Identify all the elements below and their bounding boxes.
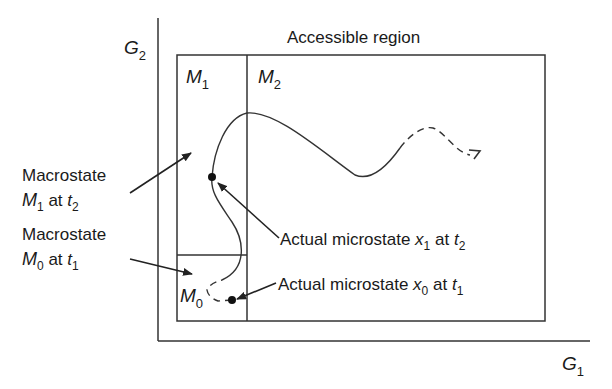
x-axis-label: G1	[562, 353, 584, 379]
trajectory-dashed-end	[400, 128, 470, 155]
arrow-macrostate-m1	[130, 153, 191, 193]
arrow-microstate-x0	[237, 283, 276, 299]
cell-label-m1: M1	[186, 66, 209, 92]
trajectory-arrowhead-icon	[469, 150, 480, 159]
arrow-microstate-x1	[218, 183, 279, 238]
arrow-macrostate-m0	[130, 259, 192, 274]
microstate-x0-dot	[228, 296, 236, 304]
macro-m0-line2: M0 at t1	[22, 249, 79, 273]
cell-label-m2: M2	[258, 66, 281, 92]
microstate-x1-dot	[208, 173, 216, 181]
micro-x0-label: Actual microstate x0 at t1	[278, 275, 464, 298]
cell-label-m0: M0	[180, 285, 203, 311]
accessible-region-title: Accessible region	[287, 28, 420, 47]
phase-space-diagram: G2 G1 Accessible region M1 M2 M0 Macrost…	[0, 0, 612, 389]
macro-m0-line1: Macrostate	[22, 225, 106, 244]
macro-m1-line1: Macrostate	[22, 166, 106, 185]
trajectory-dashed-start	[207, 280, 232, 301]
y-axis-label: G2	[124, 37, 146, 63]
micro-x1-label: Actual microstate x1 at t2	[280, 230, 466, 253]
macro-m1-line2: M1 at t2	[22, 190, 79, 214]
